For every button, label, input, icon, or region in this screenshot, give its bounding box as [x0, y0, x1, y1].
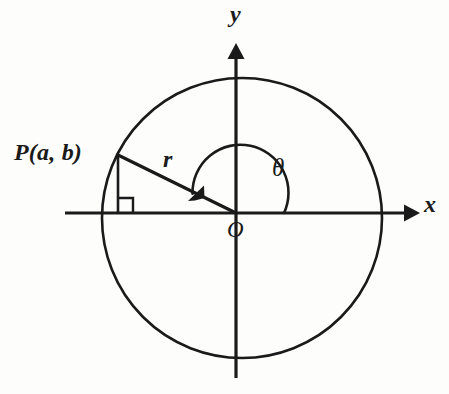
- theta-label: θ: [272, 155, 284, 180]
- angle-arc-arrowhead: [188, 186, 205, 202]
- diagram-canvas: [0, 0, 449, 394]
- x-axis-arrowhead: [404, 205, 420, 222]
- right-angle-marker: [118, 198, 133, 213]
- trig-circle-figure: P(a, b) r θ O x y: [0, 0, 449, 394]
- y-axis-label: y: [230, 2, 241, 26]
- x-axis-label: x: [424, 192, 436, 216]
- radius-segment: [118, 155, 236, 213]
- radius-label: r: [163, 147, 172, 171]
- point-p-label: P(a, b): [14, 140, 82, 164]
- point-p-marker: [116, 153, 119, 156]
- y-axis-arrowhead: [228, 43, 245, 59]
- origin-label: O: [227, 218, 244, 241]
